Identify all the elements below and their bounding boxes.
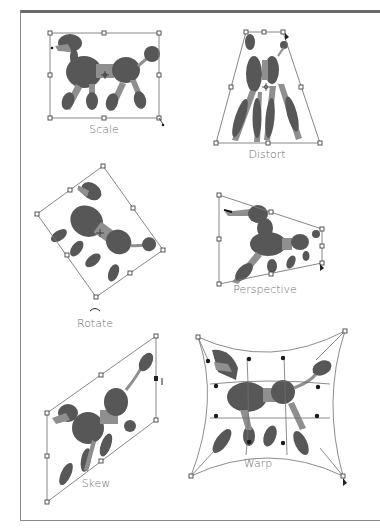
poodle-image: [209, 350, 334, 457]
panel-distort: Distort: [214, 30, 322, 161]
panel-rotate: Rotate: [35, 164, 165, 330]
arrow-cursor-icon: [285, 33, 289, 40]
poodle-image: [52, 350, 156, 487]
panel-scale: Scale: [48, 31, 164, 136]
label-skew: Skew: [82, 477, 111, 490]
panel-warp: Warp: [189, 329, 347, 486]
rotate-cursor-icon: [90, 309, 100, 312]
skew-cursor-icon: [154, 376, 162, 385]
panel-perspective: Perspective: [217, 193, 324, 296]
poodle-image: [42, 176, 165, 293]
label-distort: Distort: [248, 148, 285, 161]
label-rotate: Rotate: [77, 317, 113, 330]
label-warp: Warp: [244, 457, 272, 470]
arrow-cursor-icon: [343, 478, 347, 486]
arrow-cursor-icon: [159, 118, 164, 126]
label-scale: Scale: [89, 123, 119, 136]
crosshair-center-icon: [262, 83, 270, 91]
label-perspective: Perspective: [233, 283, 297, 296]
poodle-image: [229, 34, 302, 142]
panel-skew: Skew: [45, 334, 162, 504]
